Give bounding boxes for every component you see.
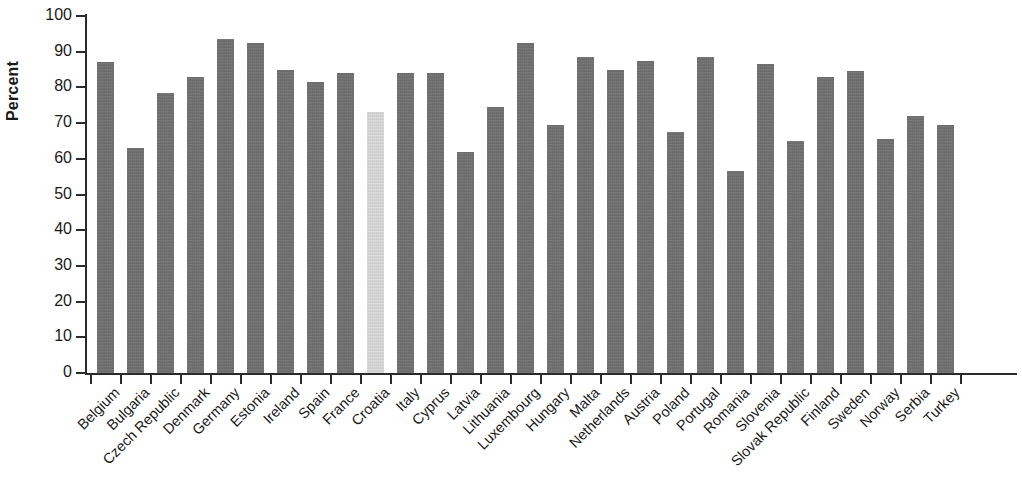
bar-poland [667, 132, 684, 373]
y-tick-label-text: 90 [36, 43, 72, 59]
x-tick-9 [360, 375, 362, 384]
x-tick-6 [270, 375, 272, 384]
x-tick-0 [90, 375, 92, 384]
bar-portugal [697, 57, 714, 373]
x-tick-17 [600, 375, 602, 384]
x-tick-3 [180, 375, 182, 384]
bar-italy [397, 73, 414, 373]
x-tick-10 [390, 375, 392, 384]
bar-denmark [187, 77, 204, 373]
bar-france [337, 73, 354, 373]
x-tick-25 [840, 375, 842, 384]
bar-romania [727, 171, 744, 373]
bar-croatia [367, 112, 384, 373]
x-tick-16 [570, 375, 572, 384]
x-tick-27 [900, 375, 902, 384]
bar-latvia [457, 152, 474, 373]
bar-cyprus [427, 73, 444, 373]
bar-turkey [937, 125, 954, 373]
bar-bulgaria [127, 148, 144, 373]
x-tick-4 [210, 375, 212, 384]
bar-slovenia [757, 64, 774, 373]
y-tick-label-50: 50 [30, 186, 72, 202]
x-tick-29 [960, 375, 962, 384]
x-tick-8 [330, 375, 332, 384]
y-tick-label-70: 70 [30, 114, 72, 130]
x-tick-26 [870, 375, 872, 384]
y-tick-label-80: 80 [30, 78, 72, 94]
bar-lithuania [487, 107, 504, 373]
plot-area [85, 16, 1015, 373]
x-tick-24 [810, 375, 812, 384]
y-tick-label-text: 20 [36, 293, 72, 309]
bar-norway [877, 139, 894, 373]
y-tick-label-text: 80 [36, 78, 72, 94]
x-tick-13 [480, 375, 482, 384]
y-tick-label-text: 40 [36, 221, 72, 237]
y-tick-label-text: 30 [36, 257, 72, 273]
x-tick-19 [660, 375, 662, 384]
y-tick-label-100: 100 [30, 7, 72, 23]
y-tick-label-60: 60 [30, 150, 72, 166]
bar-estonia [247, 43, 264, 373]
x-tick-2 [150, 375, 152, 384]
y-tick-label-text: 10 [36, 328, 72, 344]
y-tick-label-30: 30 [30, 257, 72, 273]
y-tick-label-text: 50 [36, 186, 72, 202]
x-tick-23 [780, 375, 782, 384]
x-tick-15 [540, 375, 542, 384]
x-tick-18 [630, 375, 632, 384]
x-tick-21 [720, 375, 722, 384]
bar-netherlands [607, 70, 624, 373]
bar-ireland [277, 70, 294, 373]
x-tick-12 [450, 375, 452, 384]
y-tick-label-0: 0 [30, 364, 72, 380]
bar-slovak-republic [787, 141, 804, 373]
y-tick-label-text: 100 [36, 7, 72, 23]
bar-germany [217, 39, 234, 373]
y-tick-label-10: 10 [30, 328, 72, 344]
bar-chart: Percent 0102030405060708090100 BelgiumBu… [0, 0, 1022, 495]
y-tick-label-20: 20 [30, 293, 72, 309]
y-tick-label-40: 40 [30, 221, 72, 237]
y-tick-label-text: 0 [36, 364, 72, 380]
bar-finland [817, 77, 834, 373]
x-tick-5 [240, 375, 242, 384]
y-tick-label-90: 90 [30, 43, 72, 59]
y-tick-label-text: 70 [36, 114, 72, 130]
x-tick-11 [420, 375, 422, 384]
y-tick-label-text: 60 [36, 150, 72, 166]
bar-spain [307, 82, 324, 373]
bar-malta [577, 57, 594, 373]
x-tick-28 [930, 375, 932, 384]
bar-sweden [847, 71, 864, 373]
y-axis-title: Percent [0, 26, 26, 156]
x-axis-line [85, 373, 1017, 375]
bar-belgium [97, 62, 114, 373]
x-tick-1 [120, 375, 122, 384]
bar-czech-republic [157, 93, 174, 373]
x-tick-20 [690, 375, 692, 384]
x-tick-14 [510, 375, 512, 384]
x-tick-7 [300, 375, 302, 384]
x-tick-22 [750, 375, 752, 384]
bar-serbia [907, 116, 924, 373]
bar-luxembourg [517, 43, 534, 373]
bar-austria [637, 61, 654, 373]
bar-hungary [547, 125, 564, 373]
